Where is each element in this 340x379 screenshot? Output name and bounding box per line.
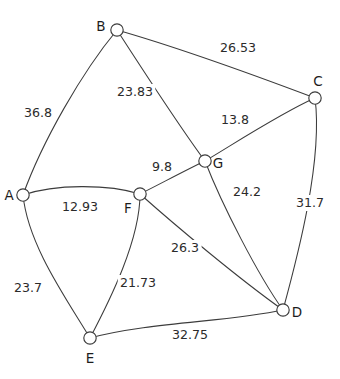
nodes-layer [17,24,321,344]
edges-layer [23,30,317,338]
graph-node-a [17,189,29,201]
graph-node-c [309,92,321,104]
edge-weight-label-e-d: 32.75 [172,327,208,342]
edge-weight-label-f-g: 9.8 [152,159,172,174]
node-label-b: B [96,18,105,34]
edge-weight-label-c-d: 31.7 [296,195,324,210]
graph-edge-c-g [205,98,315,161]
node-label-e: E [86,350,95,366]
edge-weight-label-a-b: 36.8 [24,105,52,120]
edge-weight-label-a-e: 23.7 [14,280,42,295]
graph-edge-a-f [23,187,140,195]
graph-node-b [111,24,123,36]
node-label-f: F [124,200,132,216]
graph-node-g [199,155,211,167]
node-label-d: D [292,304,302,320]
edge-weight-label-f-d: 26.3 [171,240,199,255]
graph-canvas: 36.826.5323.8313.831.712.939.824.226.323… [0,0,340,379]
edge-weight-label-f-e: 21.73 [120,275,156,290]
node-label-c: C [313,73,322,89]
graph-edge-a-e [23,195,90,338]
graph-node-f [134,188,146,200]
node-labels-layer: ABCDEFG [4,18,322,366]
node-label-g: G [213,155,223,171]
graph-figure: 36.826.5323.8313.831.712.939.824.226.323… [0,0,340,379]
node-label-a: A [4,187,14,203]
edge-weight-label-b-c: 26.53 [220,40,256,55]
graph-node-e [84,332,96,344]
edge-weight-label-b-g: 23.83 [117,84,153,99]
graph-edge-f-e [90,194,140,338]
graph-edge-f-d [140,194,283,310]
edge-weight-label-a-f: 12.93 [62,199,98,214]
graph-node-d [277,304,289,316]
edge-weight-label-g-d: 24.2 [233,184,261,199]
edge-weight-label-c-g: 13.8 [221,112,249,127]
